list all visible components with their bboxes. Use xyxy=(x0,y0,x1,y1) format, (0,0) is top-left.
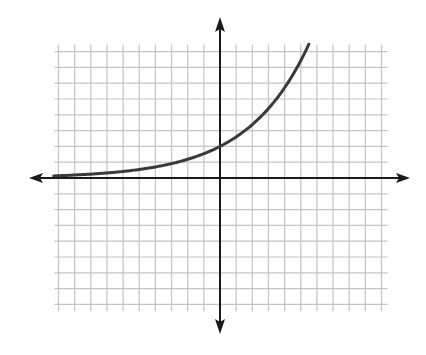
caption xyxy=(0,346,426,355)
exponential-graph xyxy=(0,0,426,355)
exponential-curve xyxy=(54,44,309,176)
